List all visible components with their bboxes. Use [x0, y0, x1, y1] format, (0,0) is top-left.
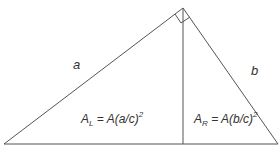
area-left-label: AL = A(a/c)2: [80, 110, 144, 128]
side-a-label: a: [73, 57, 80, 72]
side-b-label: b: [251, 63, 258, 78]
triangle-diagram: a b AL = A(a/c)2 AR = A(b/c)2: [0, 0, 280, 150]
area-right-label: AR = A(b/c)2: [193, 110, 258, 128]
